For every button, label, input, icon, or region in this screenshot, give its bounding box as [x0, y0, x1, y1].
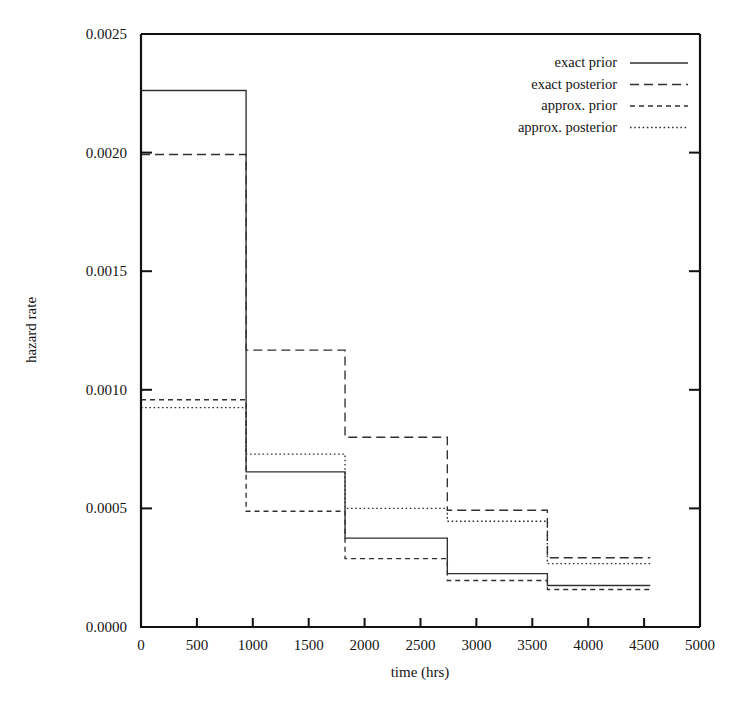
x-tick-label: 3500 [517, 637, 547, 653]
y-tick-label: 0.0000 [86, 619, 127, 635]
x-tick-label: 4000 [573, 637, 603, 653]
chart-canvas: 0500100015002000250030003500400045005000… [0, 0, 756, 703]
y-tick-label: 0.0005 [86, 500, 127, 516]
y-tick-label: 0.0020 [86, 145, 127, 161]
x-tick-label: 0 [137, 637, 145, 653]
series-layer [141, 90, 650, 589]
hazard-rate-chart-figure: 0500100015002000250030003500400045005000… [0, 0, 756, 703]
series-line-exact-prior [141, 90, 650, 585]
x-tick-label: 500 [186, 637, 209, 653]
series-line-approx-posterior [141, 408, 650, 564]
y-tick-label: 0.0015 [86, 263, 127, 279]
x-tick-label: 1000 [238, 637, 268, 653]
series-line-exact-posterior [141, 154, 650, 557]
x-tick-label: 3000 [461, 637, 491, 653]
x-axis-title: time (hrs) [391, 664, 450, 681]
x-tick-label: 2000 [350, 637, 380, 653]
chart-legend: exact priorexact posteriorapprox. priora… [518, 54, 688, 135]
legend-label: approx. prior [541, 97, 617, 113]
y-axis-title: hazard rate [23, 297, 39, 364]
x-tick-label: 2500 [406, 637, 436, 653]
y-tick-label: 0.0010 [86, 382, 127, 398]
x-tick-label: 5000 [685, 637, 715, 653]
x-tick-label: 4500 [629, 637, 659, 653]
legend-label: exact posterior [531, 76, 617, 92]
y-axis-ticks: 0.00000.00050.00100.00150.00200.0025 [86, 26, 700, 635]
legend-label: exact prior [555, 54, 618, 70]
x-tick-label: 1500 [294, 637, 324, 653]
series-line-approx-prior [141, 400, 650, 590]
legend-label: approx. posterior [518, 119, 617, 135]
x-axis-ticks: 0500100015002000250030003500400045005000 [137, 618, 715, 653]
y-tick-label: 0.0025 [86, 26, 127, 42]
